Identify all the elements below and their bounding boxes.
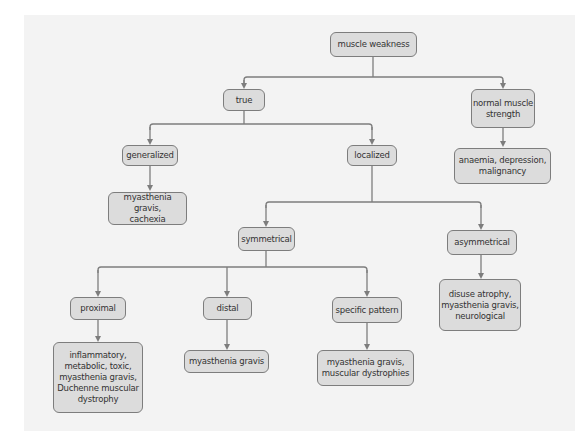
node-label: asymmetrical xyxy=(454,237,510,248)
node-label: myasthenia gravis xyxy=(189,356,264,367)
node-asymmetrical: asymmetrical xyxy=(447,230,517,255)
node-label: muscle weakness xyxy=(338,39,410,50)
node-generalized: generalized xyxy=(122,145,178,166)
node-distal-causes: myasthenia gravis xyxy=(184,350,269,373)
node-label: generalized xyxy=(126,150,174,161)
node-label: true xyxy=(236,95,253,106)
node-normal-muscle-strength: normal muscle strength xyxy=(471,89,535,128)
node-normal-causes: anaemia, depression, malignancy xyxy=(454,148,551,184)
node-asymmetrical-causes: disuse atrophy, myasthenia gravis, neuro… xyxy=(439,279,521,331)
node-label: anaemia, depression, malignancy xyxy=(459,155,546,177)
node-specific-causes: myasthenia gravis, muscular dystrophies xyxy=(317,350,414,386)
node-muscle-weakness: muscle weakness xyxy=(330,32,417,57)
node-label: inflammatory, metabolic, toxic, myasthen… xyxy=(57,350,139,405)
node-true: true xyxy=(223,89,265,111)
node-label: specific pattern xyxy=(336,305,399,316)
node-label: symmetrical xyxy=(241,234,291,245)
node-label: myasthenia gravis, cachexia xyxy=(109,192,186,225)
node-symmetrical: symmetrical xyxy=(238,227,295,251)
node-specific-pattern: specific pattern xyxy=(332,297,402,323)
node-label: myasthenia gravis, muscular dystrophies xyxy=(322,357,409,379)
node-label: localized xyxy=(354,150,389,161)
node-label: distal xyxy=(217,303,239,314)
node-label: disuse atrophy, myasthenia gravis, neuro… xyxy=(441,289,519,322)
node-localized: localized xyxy=(347,145,397,166)
node-distal: distal xyxy=(203,297,252,320)
node-proximal: proximal xyxy=(70,297,126,320)
node-generalized-causes: myasthenia gravis, cachexia xyxy=(108,192,187,225)
node-label: proximal xyxy=(80,303,115,314)
node-proximal-causes: inflammatory, metabolic, toxic, myasthen… xyxy=(53,342,143,413)
node-label: normal muscle strength xyxy=(473,98,533,120)
